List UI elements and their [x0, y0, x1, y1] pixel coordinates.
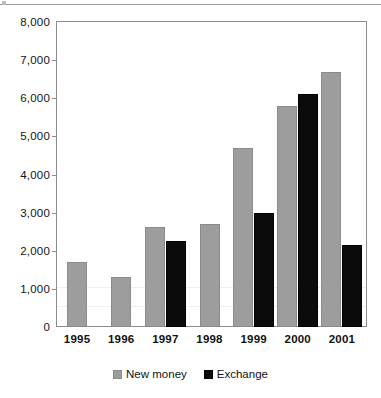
- bar-1997-exchange: [166, 241, 186, 327]
- page-top-divider: [0, 4, 381, 5]
- x-axis-tick-labels: 1995199619971998199920002001: [57, 333, 366, 351]
- y-axis-tick-label: 8,000: [20, 16, 50, 28]
- y-axis-tick-label: 4,000: [20, 169, 50, 181]
- x-axis-tick-label-2000: 2000: [285, 333, 311, 345]
- legend-item-exchange: Exchange: [204, 368, 268, 380]
- bar-1995-new-money: [67, 262, 87, 327]
- y-axis-tick-label: 6,000: [20, 92, 50, 104]
- page-corner-mark: [2, 1, 6, 5]
- bar-chart-figure: 8,0007,0006,0005,0004,0003,0002,0001,000…: [0, 0, 381, 398]
- x-axis-tick-label-1998: 1998: [196, 333, 222, 345]
- legend-label: Exchange: [217, 368, 268, 380]
- y-axis-tick-labels: 8,0007,0006,0005,0004,0003,0002,0001,000…: [0, 21, 50, 327]
- gray-square-swatch: [113, 370, 122, 379]
- bar-1999-new-money: [233, 148, 253, 327]
- bar-2000-new-money: [277, 106, 297, 327]
- y-axis-tick-label: 5,000: [20, 130, 50, 142]
- black-square-swatch: [204, 370, 213, 379]
- legend-item-new-money: New money: [113, 368, 187, 380]
- legend-label: New money: [126, 368, 187, 380]
- x-axis-tick-label-1996: 1996: [108, 333, 134, 345]
- bar-1997-new-money: [145, 227, 165, 327]
- bar-2000-exchange: [298, 94, 318, 327]
- bars-layer: [57, 22, 366, 327]
- x-axis-tick-label-1999: 1999: [240, 333, 266, 345]
- y-axis-tick-label: 0: [43, 321, 50, 333]
- y-axis-tick-label: 2,000: [20, 245, 50, 257]
- bar-1998-new-money: [200, 224, 220, 327]
- bar-1999-exchange: [254, 213, 274, 327]
- chart-legend: New moneyExchange: [0, 368, 381, 380]
- x-axis-tick-label-1995: 1995: [64, 333, 90, 345]
- y-axis-tick-label: 3,000: [20, 207, 50, 219]
- bar-2001-exchange: [342, 245, 362, 327]
- y-axis-tick-label: 7,000: [20, 54, 50, 66]
- y-axis-tick-label: 1,000: [20, 283, 50, 295]
- bar-1996-new-money: [111, 277, 131, 327]
- x-axis-tick-label-1997: 1997: [152, 333, 178, 345]
- bar-2001-new-money: [321, 72, 341, 327]
- x-axis-tick-label-2001: 2001: [329, 333, 355, 345]
